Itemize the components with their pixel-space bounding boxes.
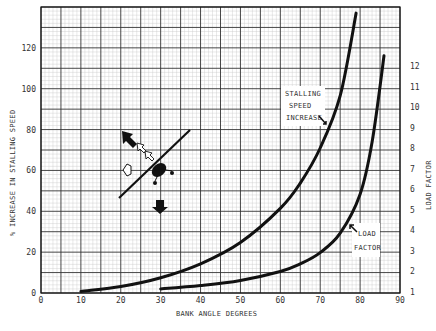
x-tick-label: 0 [39,296,44,305]
x-tick-label: 70 [315,296,325,305]
y-tick-label: 40 [26,207,36,216]
stall-annotation-line2: SPEED [289,102,312,110]
x-tick-label: 10 [76,296,86,305]
y2-axis-label: LOAD FACTOR [425,160,433,210]
x-axis-label: BANK ANGLE DEGREES [176,310,257,318]
airplane-illustration [119,130,190,214]
y-tick-label: 0 [31,289,36,298]
wheel-icon [170,171,174,175]
bank-angle-chart: STALLING SPEED INCREASE LOAD FACTOR 0102… [0,0,436,331]
y-tick-label: 80 [26,126,36,135]
y-tick-label: 100 [22,85,37,94]
y2-tick-label: 10 [410,103,420,112]
centrifugal-arrow-icon [123,164,131,176]
x-tick-label: 50 [236,296,246,305]
y-axis-label: % INCREASE IN STALLING SPEED [9,110,17,236]
load-annotation-line2: FACTOR [354,244,382,252]
x-tick-label: 90 [395,296,405,305]
y2-tick-label: 1 [410,288,415,297]
y2-tick-label: 12 [410,62,420,71]
y2-tick-label: 8 [410,144,415,153]
y-tick-label: 20 [26,248,36,257]
y2-tick-label: 5 [410,206,415,215]
x-tick-label: 30 [156,296,166,305]
y2-tick-label: 3 [410,247,415,256]
weight-arrow-icon [152,200,168,214]
y2-tick-label: 7 [410,165,415,174]
y2-tick-label: 6 [410,185,415,194]
y-tick-label: 120 [22,44,37,53]
y-tick-label: 60 [26,166,36,175]
stall-speed-curve [81,13,356,291]
y2-tick-label: 4 [410,226,415,235]
x-tick-label: 20 [116,296,126,305]
y2-tick-label: 9 [410,124,415,133]
y2-tick-label: 2 [410,267,415,276]
load-annotation-line1: LOAD [358,230,376,238]
stall-annotation-line1: STALLING [285,90,321,98]
y2-tick-label: 11 [410,83,420,92]
x-tick-label: 60 [276,296,286,305]
wheel-icon [153,181,157,185]
stall-annotation-line3: INCREASE [286,114,322,122]
major-grid [41,7,400,293]
x-tick-label: 80 [355,296,365,305]
x-tick-label: 40 [196,296,206,305]
